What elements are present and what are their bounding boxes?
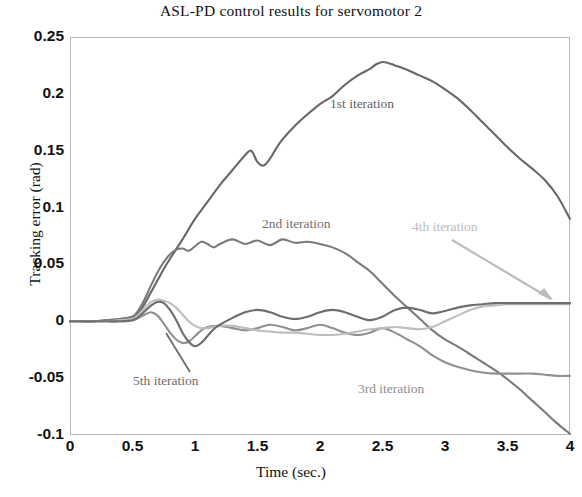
annotation-1st-iteration: 1st iteration — [330, 96, 394, 112]
y-tick-label: 0.25 — [0, 27, 64, 45]
annotation-5th-iteration: 5th iteration — [133, 373, 199, 389]
x-tick-label: 0.5 — [113, 437, 153, 455]
y-tick-label: -0.05 — [0, 368, 64, 386]
x-tick-label: 0 — [50, 437, 90, 455]
x-tick-label: 3.5 — [488, 437, 528, 455]
annotation-3rd-iteration: 3rd iteration — [358, 381, 424, 397]
x-tick-label: 2.5 — [363, 437, 403, 455]
chart-title: ASL-PD control results for servomotor 2 — [0, 2, 582, 20]
chart-container: ASL-PD control results for servomotor 2 … — [0, 0, 582, 497]
x-tick-label: 3 — [425, 437, 465, 455]
x-axis-title: Time (sec.) — [0, 463, 582, 481]
x-tick-label: 1 — [175, 437, 215, 455]
x-tick-label: 1.5 — [238, 437, 278, 455]
annotation-2nd-iteration: 2nd iteration — [262, 216, 331, 232]
x-tick-label: 4 — [550, 437, 582, 455]
annotation-4th-iteration: 4th iteration — [412, 219, 478, 235]
y-axis-title: Tracking error (rad) — [26, 94, 44, 354]
x-tick-label: 2 — [300, 437, 340, 455]
